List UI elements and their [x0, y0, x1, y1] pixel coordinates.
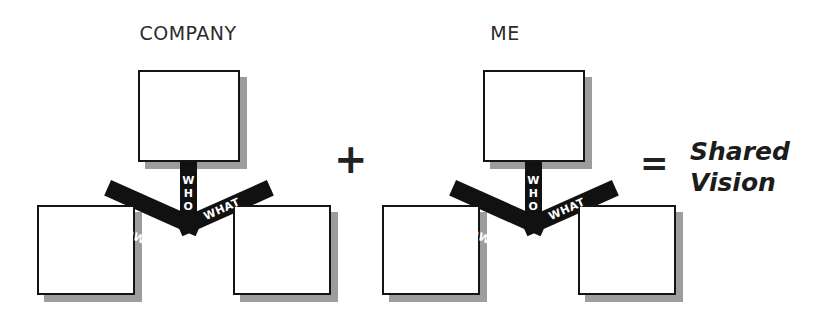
- company-node-bottom-right[interactable]: [233, 205, 331, 295]
- me-title: ME: [450, 22, 560, 44]
- me-node-bottom-left[interactable]: [382, 205, 480, 295]
- company-node-top[interactable]: [138, 70, 240, 162]
- company-node-bottom-left[interactable]: [37, 205, 135, 295]
- result-line-1: Shared: [690, 137, 790, 167]
- company-node-bottom-right-box[interactable]: [233, 205, 331, 295]
- company-node-bottom-left-box[interactable]: [37, 205, 135, 295]
- result-line-2: Vision: [690, 168, 776, 198]
- me-triad: W H O HOW WHAT: [375, 60, 685, 310]
- me-node-top[interactable]: [483, 70, 585, 162]
- company-node-top-box[interactable]: [138, 70, 240, 162]
- company-triad: W H O HOW WHAT: [30, 60, 340, 310]
- me-node-bottom-left-box[interactable]: [382, 205, 480, 295]
- me-node-top-box[interactable]: [483, 70, 585, 162]
- diagram-canvas: COMPANY W H O HOW WHAT: [0, 0, 819, 333]
- company-title: COMPANY: [108, 22, 268, 44]
- me-node-bottom-right[interactable]: [578, 205, 676, 295]
- me-node-bottom-right-box[interactable]: [578, 205, 676, 295]
